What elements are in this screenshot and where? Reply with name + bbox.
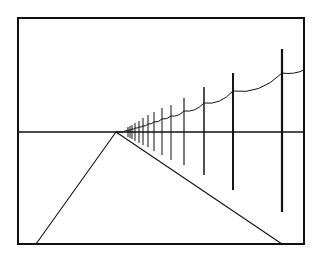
picture-frame bbox=[18, 18, 304, 244]
telephone-poles bbox=[128, 49, 282, 212]
telephone-wire bbox=[116, 70, 304, 132]
perspective-drawing bbox=[0, 0, 322, 260]
perspective-diagram bbox=[0, 0, 322, 260]
road-left-edge bbox=[36, 132, 116, 244]
road-right-edge bbox=[116, 132, 282, 244]
